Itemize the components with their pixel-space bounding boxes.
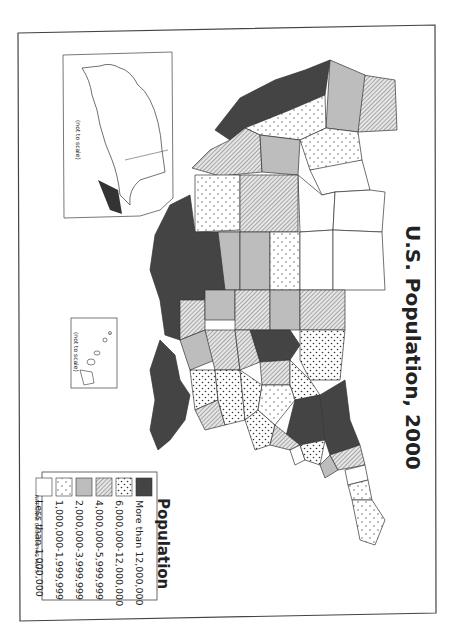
state-utah <box>260 135 300 175</box>
map-title: U.S. Population, 2000 <box>395 225 425 525</box>
state-wisconsin <box>300 290 345 330</box>
legend-label-6m-12m: 6,000,000-12,000,000 <box>114 500 125 606</box>
state-missouri <box>235 290 270 330</box>
state-new-mexico <box>195 175 240 232</box>
legend-title: Population <box>154 498 172 589</box>
legend-label-more-than-12m: More than 12,000,000 <box>134 500 145 606</box>
legend-label-4m-6m: 4,000,000-5,999,999 <box>94 500 105 600</box>
state-colorado <box>240 175 298 232</box>
legend-label-2m-4m: 2,000,000-3,999,999 <box>74 500 85 600</box>
state-south-dakota <box>300 230 333 290</box>
state-minnesota <box>333 230 385 290</box>
state-michigan <box>300 330 345 380</box>
legend-swatch-6m-12m <box>116 478 132 496</box>
state-nebraska <box>270 232 300 290</box>
credit-text: NATIONAL GEOGRAPHIC MAPS <box>34 495 40 573</box>
legend-label-1m-2m: 1,000,000-1,999,999 <box>54 500 65 600</box>
legend-swatch-more-than-12m <box>136 478 152 496</box>
legend-swatch-2m-4m <box>76 478 92 496</box>
legend-swatch-4m-6m <box>96 478 112 496</box>
state-kansas <box>240 232 270 290</box>
state-iowa <box>270 290 300 330</box>
legend-swatch-less-1m <box>36 478 52 496</box>
legend-swatch-1m-2m <box>56 478 72 496</box>
hawaii-not-to-scale-note: (not to scale) <box>73 332 80 372</box>
state-north-dakota <box>333 190 385 232</box>
alaska-not-to-scale-note: (not to scale) <box>75 120 82 160</box>
state-arkansas <box>205 290 235 320</box>
state-indiana <box>260 360 290 385</box>
